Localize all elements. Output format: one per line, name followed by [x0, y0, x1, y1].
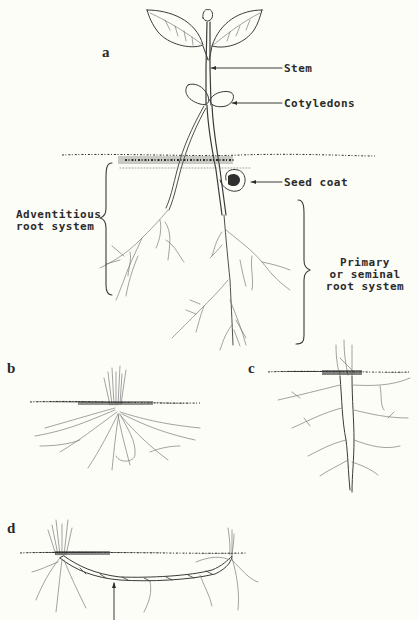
cotyledons-label: Cotyledons — [284, 98, 355, 110]
cotyledon-right — [210, 91, 233, 106]
primary-brace — [296, 200, 310, 344]
stem-label: Stem — [284, 63, 313, 75]
soil-line-d — [20, 552, 246, 553]
primary-root-system-label: Primary or seminal root system — [320, 257, 410, 293]
panel-d-rhizome — [20, 520, 258, 620]
adventitious-root-system-label: Adventitious root system — [16, 209, 101, 233]
panel-label-d: d — [7, 520, 15, 537]
adventitious-label-line2: root system — [16, 221, 101, 233]
terminal-bud — [203, 9, 213, 21]
cotyledon-left — [186, 84, 209, 104]
rhizome — [60, 556, 232, 581]
panel-c-taproot — [268, 340, 410, 492]
seed-coat — [220, 169, 245, 191]
soil-line-a — [62, 154, 375, 156]
panel-label-c: c — [248, 360, 255, 377]
adventitious-brace — [100, 163, 112, 295]
panel-label-b: b — [7, 360, 15, 377]
primary-label-line3: root system — [320, 281, 410, 293]
panel-b-fibrous-roots — [30, 366, 200, 470]
panel-label-a: a — [102, 44, 110, 61]
seed-coat-label: Seed coat — [284, 177, 348, 189]
root-systems-illustration — [0, 0, 418, 620]
